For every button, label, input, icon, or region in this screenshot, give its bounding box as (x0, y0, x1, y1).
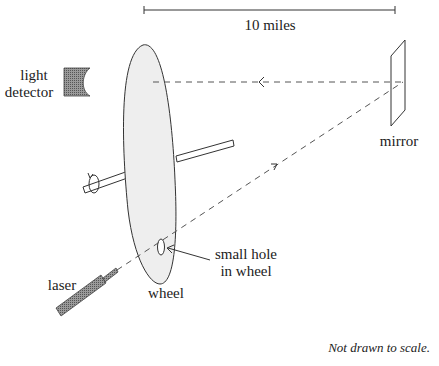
scale-note: Not drawn to scale. (327, 340, 430, 355)
light-detector-label-1: light (20, 67, 48, 83)
hole-label-1: small hole (215, 246, 277, 262)
laser-label: laser (48, 277, 76, 293)
mirror-label: mirror (380, 133, 418, 149)
scale-bar (144, 6, 395, 14)
axle-right (176, 140, 234, 162)
wheel-label: wheel (148, 285, 184, 301)
speed-of-light-diagram: 10 miles mirror light detector laser whe… (0, 0, 439, 366)
mirror (391, 40, 405, 126)
scale-bar-label: 10 miles (244, 17, 295, 33)
hole-label-2: in wheel (220, 263, 271, 279)
wheel-hole (158, 239, 165, 255)
light-detector-label-2: detector (5, 84, 53, 100)
light-detector-icon (64, 68, 90, 96)
